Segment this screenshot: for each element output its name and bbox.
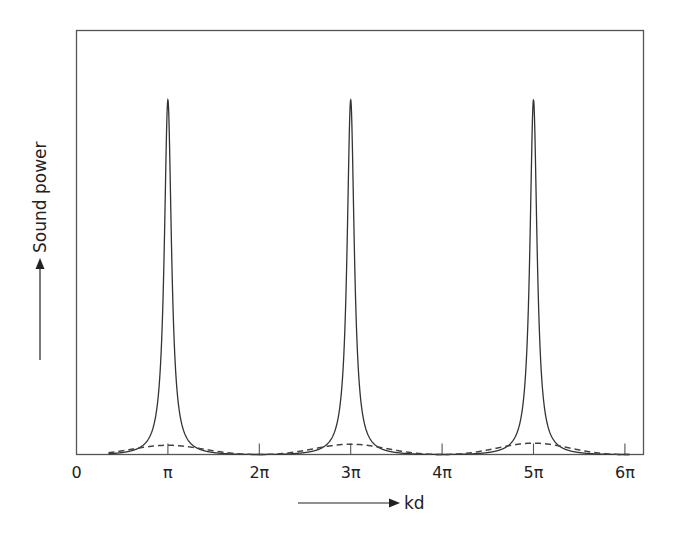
y-axis-arrow-head-icon [36,258,45,269]
x-tick-label: 5π [524,463,544,482]
resonance-curve [108,100,629,454]
y-axis-title-group: Sound power [30,142,50,360]
x-tick-label: 2π [249,463,269,482]
x-tick-label: 0 [71,463,81,482]
x-tick-label: 3π [341,463,361,482]
chart: 0π2π3π4π5π6π kd Sound power [0,0,674,535]
x-tick-label: π [163,463,173,482]
y-axis-title: Sound power [30,142,50,253]
x-tick-label: 6π [615,463,635,482]
x-axis-title-group: kd [298,493,425,513]
x-tick-labels: 0π2π3π4π5π6π [71,463,635,482]
x-axis-arrow-head-icon [389,499,400,508]
x-axis-title: kd [404,493,425,513]
x-tick-label: 4π [432,463,452,482]
broad-curve [108,443,629,454]
